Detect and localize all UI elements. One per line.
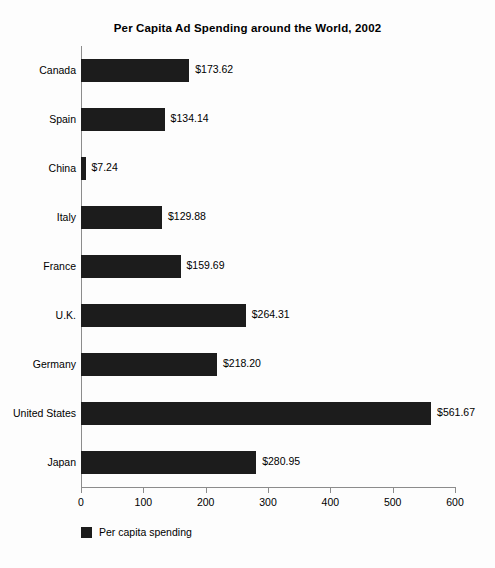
bar-row: France$159.69	[81, 255, 455, 278]
bar	[81, 304, 246, 327]
bar-chart: Per Capita Ad Spending around the World,…	[0, 0, 495, 568]
category-label: Italy	[2, 211, 76, 223]
x-axis-tick	[206, 488, 207, 493]
category-label: China	[2, 162, 76, 174]
chart-legend: Per capita spending	[81, 526, 192, 538]
legend-swatch-icon	[81, 527, 92, 538]
bar	[81, 108, 165, 131]
bar-row: China$7.24	[81, 157, 455, 180]
legend-label: Per capita spending	[99, 526, 192, 538]
bar-row: United States$561.67	[81, 402, 455, 425]
x-axis-tick-label: 100	[123, 496, 163, 508]
bar	[81, 255, 181, 278]
chart-title: Per Capita Ad Spending around the World,…	[0, 22, 495, 34]
x-axis-tick	[143, 488, 144, 493]
x-axis-tick-label: 500	[373, 496, 413, 508]
bar	[81, 402, 431, 425]
bar-value-label: $173.62	[195, 63, 233, 75]
category-label: Germany	[2, 358, 76, 370]
bar-row: Spain$134.14	[81, 108, 455, 131]
category-label: U.K.	[2, 309, 76, 321]
x-axis-tick	[81, 488, 82, 493]
bar-value-label: $134.14	[171, 112, 209, 124]
bar-row: Japan$280.95	[81, 451, 455, 474]
bar	[81, 157, 86, 180]
bar	[81, 451, 256, 474]
category-label: Spain	[2, 113, 76, 125]
bar	[81, 59, 189, 82]
plot-area: 0100200300400500600 Canada$173.62Spain$1…	[81, 46, 455, 487]
bar	[81, 206, 162, 229]
bar	[81, 353, 217, 376]
category-label: United States	[2, 407, 76, 419]
bar-value-label: $7.24	[92, 161, 118, 173]
bar-value-label: $280.95	[262, 455, 300, 467]
bar-value-label: $218.20	[223, 357, 261, 369]
bar-row: Canada$173.62	[81, 59, 455, 82]
x-axis-tick-label: 300	[248, 496, 288, 508]
category-label: Japan	[2, 456, 76, 468]
bar-value-label: $129.88	[168, 210, 206, 222]
bar-value-label: $264.31	[252, 308, 290, 320]
x-axis-tick	[393, 488, 394, 493]
x-axis-tick	[330, 488, 331, 493]
bar-row: Germany$218.20	[81, 353, 455, 376]
x-axis-tick-label: 200	[186, 496, 226, 508]
category-label: Canada	[2, 64, 76, 76]
bar-value-label: $561.67	[437, 406, 475, 418]
x-axis-tick-label: 0	[61, 496, 101, 508]
x-axis-tick-label: 400	[310, 496, 350, 508]
bar-value-label: $159.69	[187, 259, 225, 271]
x-axis-tick	[268, 488, 269, 493]
bar-row: Italy$129.88	[81, 206, 455, 229]
x-axis-tick-label: 600	[435, 496, 475, 508]
bar-row: U.K.$264.31	[81, 304, 455, 327]
category-label: France	[2, 260, 76, 272]
x-axis-tick	[455, 488, 456, 493]
